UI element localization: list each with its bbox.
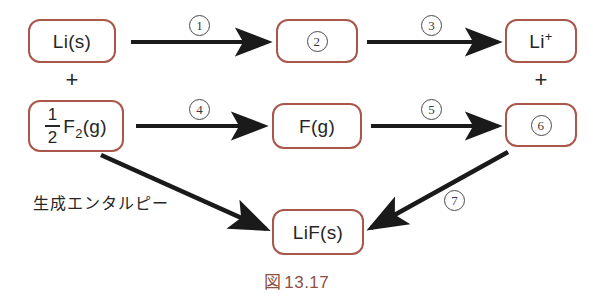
- circled-number-5: 5: [421, 99, 442, 120]
- box-lithium-fluoride-solid: LiF(s): [272, 209, 364, 255]
- fraction-numerator: 1: [46, 106, 60, 124]
- charge-superscript: +: [545, 28, 553, 43]
- box-lithium-solid-label: Li(s): [53, 32, 91, 51]
- arrow-step-7: [371, 152, 508, 228]
- caption-number: 13.17: [284, 273, 329, 292]
- circled-number-3: 3: [421, 15, 442, 36]
- fluorine-formula: F2(g): [63, 117, 107, 136]
- one-half-fraction: 1 2: [45, 106, 60, 146]
- formation-enthalpy-label: 生成エンタルピー: [33, 190, 169, 214]
- plus-operator-right: +: [505, 69, 577, 91]
- circled-number-2: 2: [307, 31, 328, 52]
- figure-caption: 図13.17: [0, 268, 593, 293]
- box-lithium-cation-label: Li+: [529, 32, 552, 51]
- fraction-denominator: 2: [46, 128, 60, 146]
- born-haber-cycle-figure: Li(s) 2 Li+ 1 2 F2(g) F(g) 6 LiF(s) + +: [0, 0, 593, 302]
- box-step-6-unknown: 6: [505, 103, 577, 147]
- circled-number-4: 4: [189, 99, 210, 120]
- box-lithium-solid: Li(s): [28, 19, 116, 63]
- circled-number-1: 1: [189, 15, 210, 36]
- half-fluorine-expression: 1 2 F2(g): [45, 106, 107, 146]
- box-lithium-cation: Li+: [505, 19, 577, 63]
- caption-symbol: 図: [264, 272, 282, 292]
- box-step-2-unknown: 2: [276, 19, 358, 63]
- plus-operator-left: +: [28, 69, 116, 91]
- circled-number-6: 6: [531, 115, 552, 136]
- box-lithium-fluoride-solid-label: LiF(s): [293, 223, 343, 242]
- box-half-fluorine-gas: 1 2 F2(g): [28, 100, 124, 152]
- fluorine-subscript: 2: [75, 125, 83, 140]
- circled-number-7: 7: [444, 190, 465, 211]
- box-fluorine-atom-gas: F(g): [272, 103, 362, 149]
- box-fluorine-atom-gas-label: F(g): [299, 117, 335, 136]
- fraction-bar: [45, 125, 60, 127]
